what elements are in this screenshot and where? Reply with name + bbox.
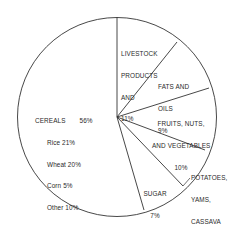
livestock-line-2: PRODUCTS: [121, 72, 158, 79]
cereals-corn: Corn 5%: [35, 182, 93, 189]
cereals-other: Other 10%: [35, 204, 93, 211]
fruits-line-1: FRUITS, NUTS,: [152, 120, 210, 127]
potatoes-line-2: YAMS,: [191, 196, 227, 203]
sugar-line-1: SUGAR: [140, 190, 170, 197]
label-cereals: CEREALS56% Rice 21% Wheat 20% Corn 5% Ot…: [35, 103, 93, 218]
fats-line-1: FATS AND: [158, 83, 189, 90]
potatoes-line-1: POTATOES,: [191, 174, 227, 181]
cereals-rice: Rice 21%: [35, 139, 93, 146]
cereals-header: CEREALS56%: [35, 117, 93, 124]
livestock-line-1: LIVESTOCK: [121, 50, 158, 57]
cereals-wheat: Wheat 20%: [35, 161, 93, 168]
label-potatoes: POTATOES, YAMS, CASSAVA 7%: [191, 160, 227, 229]
sugar-pct: 7%: [140, 212, 170, 219]
fruits-line-2: AND VEGETABLES: [152, 142, 210, 149]
label-sugar: SUGAR 7%: [140, 176, 170, 226]
cereals-pct: 56%: [80, 117, 93, 124]
potatoes-line-3: CASSAVA: [191, 218, 227, 225]
cereals-title: CEREALS: [35, 117, 66, 124]
livestock-line-3: AND: [121, 94, 158, 101]
